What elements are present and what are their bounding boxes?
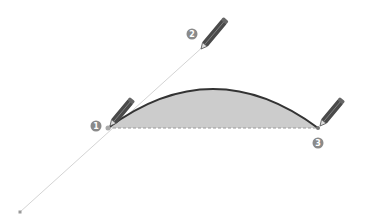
step-badge-2: 2 <box>187 29 198 40</box>
pencil-icon <box>317 97 345 128</box>
point-3 <box>316 126 320 130</box>
pencil-icon <box>198 17 228 51</box>
diagram-canvas: 1 2 3 <box>0 0 368 224</box>
svg-text:3: 3 <box>315 139 321 148</box>
step-badge-3: 3 <box>313 138 324 149</box>
svg-text:2: 2 <box>189 30 195 39</box>
guide-start-point <box>19 211 22 214</box>
svg-text:1: 1 <box>93 122 99 131</box>
step-badge-1: 1 <box>91 121 102 132</box>
